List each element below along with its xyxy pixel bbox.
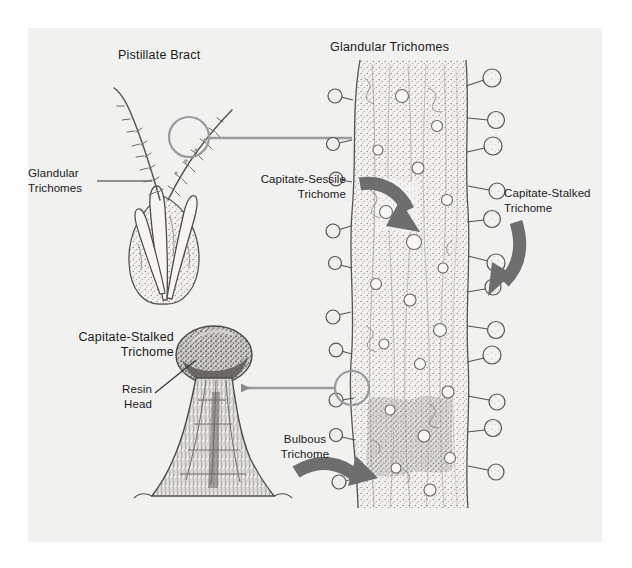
- trichome-diagram-figure: Pistillate Bract Glandular Trichomes Gla…: [0, 0, 632, 568]
- trichome-column-magnifier: [335, 371, 369, 405]
- label-capitate-sessile-trichome: Capitate-Sessile Trichome: [220, 172, 346, 201]
- label-bulbous-trichome: Bulbous Trichome: [250, 432, 360, 461]
- capitate-sessile-arrow: [360, 183, 420, 232]
- heading-glandular-trichomes: Glandular Trichomes: [330, 40, 449, 55]
- label-glandular-trichomes-callout: Glandular Trichomes: [28, 166, 96, 195]
- heading-capitate-stalked-panel: Capitate-Stalked Trichome: [44, 330, 174, 359]
- leader-resin-head: [155, 360, 196, 393]
- capitate-stalked-arrow: [488, 222, 520, 296]
- label-resin-head: Resin Head: [92, 382, 152, 411]
- pistillate-bract-drawing: [114, 88, 232, 304]
- pistillate-bract-magnifier: [169, 117, 209, 157]
- illustration-layer: [0, 0, 632, 568]
- heading-pistillate-bract: Pistillate Bract: [118, 48, 200, 63]
- label-capitate-stalked-trichome: Capitate-Stalked Trichome: [504, 186, 624, 215]
